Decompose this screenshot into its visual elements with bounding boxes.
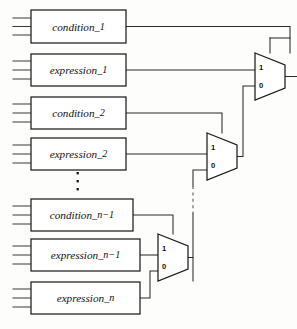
box-expression-n[interactable]: expression_n — [31, 282, 140, 314]
box-label-expression-2: expression_2 — [50, 147, 108, 159]
box-label-expression-1: expression_1 — [50, 63, 108, 75]
input-stub-condition-n-1 — [13, 206, 31, 224]
box-condition-1[interactable]: condition_1 — [31, 10, 126, 43]
diagram-canvas: condition_1 expression_1 condition_2 exp… — [0, 0, 297, 329]
mux-1-shape — [255, 53, 285, 100]
input-stub-condition-1 — [13, 18, 31, 35]
box-condition-2[interactable]: condition_2 — [31, 97, 126, 129]
box-label-expression-n-1: expression_n−1 — [51, 248, 121, 260]
input-stub-expression-n — [13, 289, 31, 307]
box-expression-2[interactable]: expression_2 — [31, 138, 126, 170]
multiplexers-group: 1 0 1 0 1 0 — [158, 53, 285, 281]
box-expression-n-1[interactable]: expression_n−1 — [31, 239, 140, 271]
mux-2[interactable]: 1 0 — [207, 133, 237, 180]
input-stubs-group — [13, 18, 31, 307]
boxes-group: condition_1 expression_1 condition_2 exp… — [31, 10, 140, 314]
input-stub-expression-1 — [13, 61, 31, 79]
ellipsis-dot-3 — [77, 188, 79, 190]
vertical-ellipsis — [77, 172, 79, 190]
wire-expression-n-to-mux-3-low — [140, 271, 158, 298]
mux-cascade-diagram: condition_1 expression_1 condition_2 exp… — [0, 0, 297, 329]
mux-3[interactable]: 1 0 — [158, 234, 188, 281]
ellipsis-dot-2 — [77, 180, 79, 182]
input-stub-condition-2 — [13, 104, 31, 122]
ellipsis-dot-1 — [77, 172, 79, 174]
mux-1-port-low-label: 0 — [259, 81, 263, 90]
mux-3-shape — [158, 234, 188, 281]
box-label-condition-1: condition_1 — [52, 20, 104, 32]
box-label-condition-n-1: condition_n−1 — [50, 208, 114, 220]
mux-2-shape — [207, 133, 237, 180]
box-condition-n-1[interactable]: condition_n−1 — [31, 199, 133, 231]
box-label-expression-n: expression_n — [57, 291, 115, 303]
input-stub-expression-2 — [13, 145, 31, 163]
input-stub-expression-n-1 — [13, 246, 31, 264]
box-expression-1[interactable]: expression_1 — [31, 54, 126, 86]
box-label-condition-2: condition_2 — [52, 106, 104, 118]
wire-mux-2-low-stub — [193, 170, 207, 186]
mux-2-port-low-label: 0 — [211, 161, 215, 170]
mux-1[interactable]: 1 0 — [255, 53, 285, 100]
wire-condition-n-1-to-mux-3-select — [133, 215, 173, 234]
wire-condition-2-to-mux-2-select — [126, 113, 222, 133]
wire-mux-2-out-to-mux-1-low — [237, 86, 255, 157]
wire-condition-1-to-mux-1-select — [126, 27, 290, 54]
mux-3-port-low-label: 0 — [162, 262, 166, 271]
